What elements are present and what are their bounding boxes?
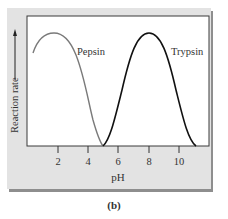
chart-svg: Reaction rate 2 4 6 8 10 pH Pepsin Tryps…: [0, 0, 228, 219]
x-axis-ticks: [58, 146, 179, 153]
x-tick-label: 2: [55, 156, 60, 167]
x-tick-label: 10: [174, 156, 185, 167]
trypsin-label: Trypsin: [171, 46, 204, 57]
x-tick-label: 4: [85, 156, 91, 167]
y-axis-label: Reaction rate: [9, 77, 20, 133]
x-axis-label: pH: [111, 171, 125, 183]
pepsin-label: Pepsin: [77, 46, 106, 57]
arrow-up-icon: [13, 29, 17, 36]
x-tick-label: 8: [146, 156, 151, 167]
y-axis-label-group: Reaction rate: [9, 29, 20, 133]
plot-area: [27, 16, 209, 146]
figure-caption: (b): [0, 199, 228, 211]
x-tick-label: 6: [115, 156, 120, 167]
